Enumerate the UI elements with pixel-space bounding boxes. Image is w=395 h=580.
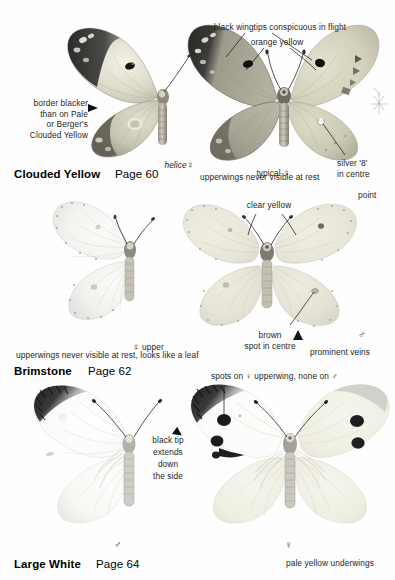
callouts-large-white <box>0 0 395 580</box>
symbol-female-large-white: ♀ <box>285 540 293 551</box>
callout-pale-yellow-underwings: pale yellow underwings <box>286 558 374 569</box>
species-name-large-white: Large White <box>14 558 81 570</box>
field-guide-page: border blacker than on Pale or Berger's … <box>0 0 395 580</box>
page-ref-large-white: Page 64 <box>96 558 140 570</box>
symbol-male-large-white: ♂ <box>114 540 122 551</box>
callout-black-tip: black tip extends down the side <box>137 434 199 482</box>
callout-spots-note: spots on ♀ upperwing, none on ♂ <box>211 371 338 382</box>
